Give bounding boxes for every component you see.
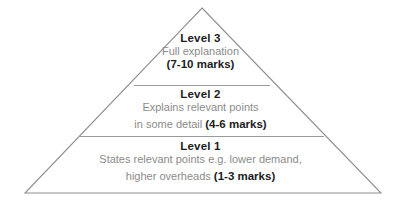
level-2-heading: Level 2 (0, 88, 401, 101)
level-1-description-line-1: States relevant points e.g. lower demand… (0, 153, 401, 166)
level-1-heading: Level 1 (0, 140, 401, 153)
pyramid-diagram: Level 3 Full explanation (7-10 marks) Le… (0, 0, 401, 206)
pyramid-tier-level-2: Level 2 Explains relevant points in some… (0, 88, 401, 132)
pyramid-text-layer: Level 3 Full explanation (7-10 marks) Le… (0, 0, 401, 206)
pyramid-tier-level-3: Level 3 Full explanation (7-10 marks) (0, 32, 401, 70)
level-2-marks: (4-6 marks) (205, 118, 266, 130)
pyramid-tier-level-1: Level 1 States relevant points e.g. lowe… (0, 140, 401, 184)
level-2-description-line-1: Explains relevant points (0, 101, 401, 114)
level-3-description-line-1: Full explanation (0, 45, 401, 58)
level-1-marks: (1-3 marks) (214, 170, 275, 182)
level-1-description-line-2: higher overheads (126, 170, 211, 182)
level-2-description-line-2: in some detail (134, 118, 202, 130)
level-3-heading: Level 3 (0, 32, 401, 45)
level-3-marks: (7-10 marks) (0, 58, 401, 70)
